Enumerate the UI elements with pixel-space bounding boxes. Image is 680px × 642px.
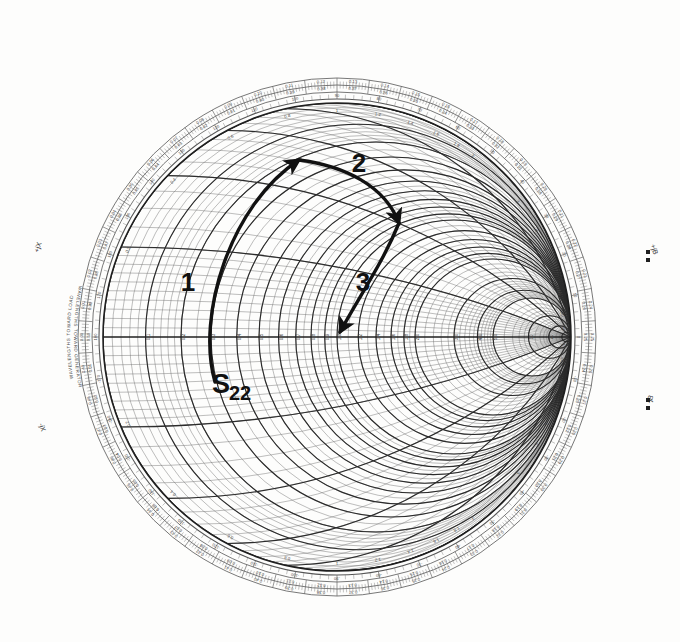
segment-label-3: 3 [356,267,370,297]
svg-text:5.0: 5.0 [493,333,498,340]
segment-label-1: 1 [181,267,195,297]
svg-text:0.3: 0.3 [211,333,216,340]
svg-text:0.00: 0.00 [79,332,84,341]
svg-text:2.0: 2.0 [415,333,420,340]
svg-text:0.25: 0.25 [590,333,595,342]
svg-text:0.12: 0.12 [316,583,325,589]
svg-text:0.12: 0.12 [317,79,326,85]
figure-background [0,0,680,642]
segment-label-2: 2 [352,148,366,178]
axis-marker-square [646,398,650,402]
svg-text:90: 90 [335,93,340,98]
svg-text:0.7: 0.7 [296,333,301,340]
axis-marker-square [646,406,650,410]
svg-text:1.2: 1.2 [358,333,363,340]
svg-text:50: 50 [561,325,566,331]
svg-text:1.4: 1.4 [376,333,381,340]
smith-chart-figure: 0.10.20.30.40.50.60.70.80.91.01.21.41.61… [0,0,680,642]
smith-chart-canvas: 0.10.20.30.40.50.60.70.80.91.01.21.41.61… [0,0,680,642]
svg-text:20: 20 [549,334,554,340]
svg-text:0.13: 0.13 [349,79,358,85]
svg-text:10: 10 [529,334,534,340]
svg-text:3.0: 3.0 [454,333,459,340]
svg-text:22: 22 [229,382,251,404]
svg-text:0.38: 0.38 [317,86,326,92]
svg-text:0.25: 0.25 [583,333,588,342]
svg-text:0.2: 0.2 [181,333,186,340]
svg-text:1.6: 1.6 [391,333,396,340]
svg-text:0.9: 0.9 [325,333,330,340]
svg-text:0.4: 0.4 [237,333,242,340]
svg-text:50: 50 [561,344,566,350]
axis-marker-square [646,250,650,254]
svg-text:0.50: 0.50 [86,332,91,341]
axis-marker-square [646,258,650,262]
svg-text:180: 180 [93,333,98,341]
svg-text:S: S [212,369,230,399]
svg-text:4.0: 4.0 [478,333,483,340]
svg-text:0.37: 0.37 [348,590,357,596]
svg-text:0.6: 0.6 [279,333,284,340]
svg-text:0.37: 0.37 [348,86,357,92]
svg-text:-90: -90 [333,576,340,581]
svg-text:1.0: 1.0 [337,333,342,340]
svg-text:0.5: 0.5 [259,333,264,340]
svg-text:1.8: 1.8 [404,333,409,340]
svg-text:0.8: 0.8 [311,333,316,340]
svg-text:0.13: 0.13 [348,583,357,589]
svg-text:0.38: 0.38 [316,590,325,596]
svg-text:0.1: 0.1 [146,333,151,340]
